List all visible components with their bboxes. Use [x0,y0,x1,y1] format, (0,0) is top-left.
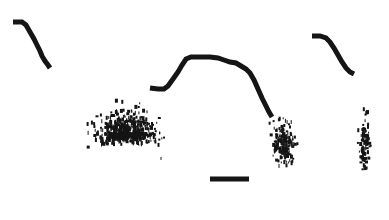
spike-dot [123,129,124,132]
spike-dot [88,131,89,135]
spike-dot [362,147,365,150]
spike-dot [101,119,102,123]
spike-dot [142,116,145,120]
spike-dot [289,153,291,155]
spike-dot [367,157,370,160]
spike-dot [362,139,363,141]
spike-dot [278,146,279,150]
spike-dot [100,114,102,117]
spike-dot [145,132,147,136]
spike-dot [289,159,290,162]
spike-dot [96,133,99,136]
cluster-far-right [357,107,372,170]
spike-dot [105,122,106,124]
spike-dot [290,132,292,136]
spike-dot [124,124,125,127]
spike-dot [142,127,144,131]
spike-dot [145,117,147,121]
spike-dot [91,121,93,125]
spike-dot [274,146,275,149]
spike-dot [131,110,132,113]
spike-dot [147,128,150,130]
spike-dot [115,133,117,137]
spike-dot [363,163,365,167]
spike-dot [138,137,139,139]
spike-dot [288,162,289,164]
scale-bar [210,177,249,182]
spike-dot [291,120,292,124]
spike-dot [114,120,116,124]
spike-dot [280,141,282,143]
spike-dot [101,129,102,132]
spike-dot [294,143,297,146]
trace-layer [13,22,354,117]
spike-dot [282,142,284,144]
spike-dot [285,159,286,161]
spike-dot [154,141,156,144]
spike-dot [137,125,139,127]
spike-dot [367,150,369,154]
spike-dot [281,126,283,128]
spike-dot [101,143,102,147]
spike-dot [115,110,117,114]
spike-dot [366,137,368,140]
spike-dot [288,123,290,125]
spike-dot [281,129,283,131]
spike-dot [148,130,149,133]
spike-dot [366,110,369,114]
spike-dot [147,110,148,113]
spike-dot [87,146,90,149]
spike-dot [273,120,275,122]
spike-dot [291,160,293,163]
spike-dot [283,149,284,153]
spike-dot [286,150,288,152]
spike-dot [110,111,112,113]
spike-dot [281,146,283,148]
spike-dot [287,140,290,142]
spike-dot [109,120,112,124]
spike-dot [283,124,285,127]
spike-dot [119,140,121,143]
spike-dot [291,143,292,147]
spike-dot [126,125,127,128]
spike-dot [127,132,129,134]
spike-dot [361,134,362,137]
spike-dot [365,144,366,146]
spike-dot [110,116,111,120]
cluster-left [87,99,165,160]
spike-dot [119,137,122,140]
spike-dot [130,127,132,129]
spike-dot [365,161,368,164]
spike-dot [143,122,145,125]
spike-dot [148,135,150,137]
spike-dot [124,131,126,133]
spike-dot [127,141,128,143]
spike-dot [270,133,273,136]
spike-dot [125,116,126,118]
spike-dot [134,120,137,123]
spike-dot [140,127,141,129]
spike-dot [359,151,360,153]
left-trace [13,22,50,68]
spike-dot [131,124,132,127]
spike-dot [127,121,128,124]
center-trace [150,57,272,117]
spike-dot [287,120,288,124]
spike-dot [109,139,110,141]
spike-dot [132,126,133,128]
spike-dot [100,127,102,129]
spike-dot [137,132,140,135]
spike-dot [277,128,278,132]
spike-dot [116,128,117,132]
spike-dot [145,127,147,130]
spike-dot [288,142,291,145]
spike-dot [362,168,364,170]
spike-dot [279,164,280,168]
spike-dot [286,137,287,141]
spike-dot [140,116,141,120]
figure-canvas [0,0,389,220]
spike-dot [273,155,274,157]
spike-dot [111,137,112,139]
spike-dot [132,135,134,137]
cluster-center-right [269,117,299,168]
